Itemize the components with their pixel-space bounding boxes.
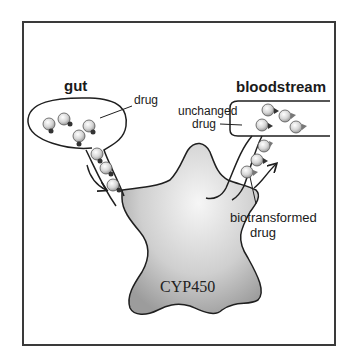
unchanged-drug-label-line1: unchanged	[178, 104, 237, 118]
bloodstream-label: bloodstream	[236, 78, 326, 95]
gut-label: gut	[64, 77, 87, 94]
drug-label: drug	[134, 93, 158, 107]
unchanged-drug-label-line2: drug	[192, 117, 216, 131]
biotransformed-label-line2: drug	[250, 225, 276, 240]
diagram-canvas: CYP450 gut drug bloodstream unchanged dr…	[0, 0, 356, 358]
biotransformed-label-line1: biotransformed	[230, 210, 317, 225]
enzyme-label: CYP450	[160, 278, 215, 295]
